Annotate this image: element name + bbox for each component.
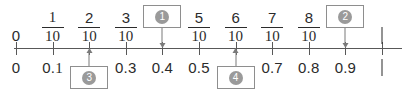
answer-box-1[interactable]: 1 [143,5,181,28]
bottom-label-0.7: 0.7 [261,60,282,75]
bottom-label-0.3: 0.3 [115,60,136,75]
fraction-label-2-over-10: 210 [74,10,104,44]
fraction-denominator: 10 [221,29,251,44]
answer-box-2[interactable]: 2 [326,5,364,28]
fraction-numerator: 5 [184,10,214,25]
pointer-arrow-4 [235,53,236,66]
circled-number-1-icon: 1 [155,10,169,24]
pointer-arrow-3 [89,53,90,66]
fraction-numerator: 6 [221,10,251,25]
fraction-denominator: 10 [111,29,141,44]
bottom-label-0: 0 [12,60,21,75]
bottom-label-0.5: 0.5 [188,60,209,75]
fraction-label-5-over-10: 510 [184,10,214,44]
fraction-denominator: 10 [38,29,68,44]
circled-number-4-icon: 4 [229,71,243,85]
pointer-arrow-2 [345,28,346,43]
number-line-axis [14,48,402,49]
top-label-one [382,27,383,44]
fraction-label-8-over-10: 810 [294,10,324,44]
circled-number-2-icon: 2 [338,10,352,24]
fraction-denominator: 10 [184,29,214,44]
bottom-label-0.9: 0.9 [335,60,356,75]
answer-box-4[interactable]: 4 [217,66,255,89]
fraction-numerator: 3 [111,10,141,25]
fraction-label-1-over-10: 110 [38,10,68,44]
bottom-label-0.1: 0.1 [42,60,63,76]
bottom-label-0.4: 0.4 [152,60,173,75]
answer-box-3[interactable]: 3 [70,66,108,89]
fraction-denominator: 10 [74,29,104,44]
fraction-label-6-over-10: 610 [221,10,251,44]
number-line-worksheet: 0110210310510610710810 00.10.30.40.50.70… [0,0,410,92]
fraction-denominator: 10 [257,29,287,44]
circled-number-3-icon: 3 [82,71,96,85]
fraction-denominator: 10 [294,29,324,44]
bottom-label-one [382,59,383,76]
fraction-label-7-over-10: 710 [257,10,287,44]
top-label-0: 0 [12,28,21,43]
fraction-numerator: 1 [38,10,68,25]
bottom-label-0.8: 0.8 [298,60,319,75]
fraction-numerator: 7 [257,10,287,25]
fraction-numerator: 8 [294,10,324,25]
pointer-arrow-1 [162,28,163,43]
fraction-label-3-over-10: 310 [111,10,141,44]
fraction-numerator: 2 [74,10,104,25]
